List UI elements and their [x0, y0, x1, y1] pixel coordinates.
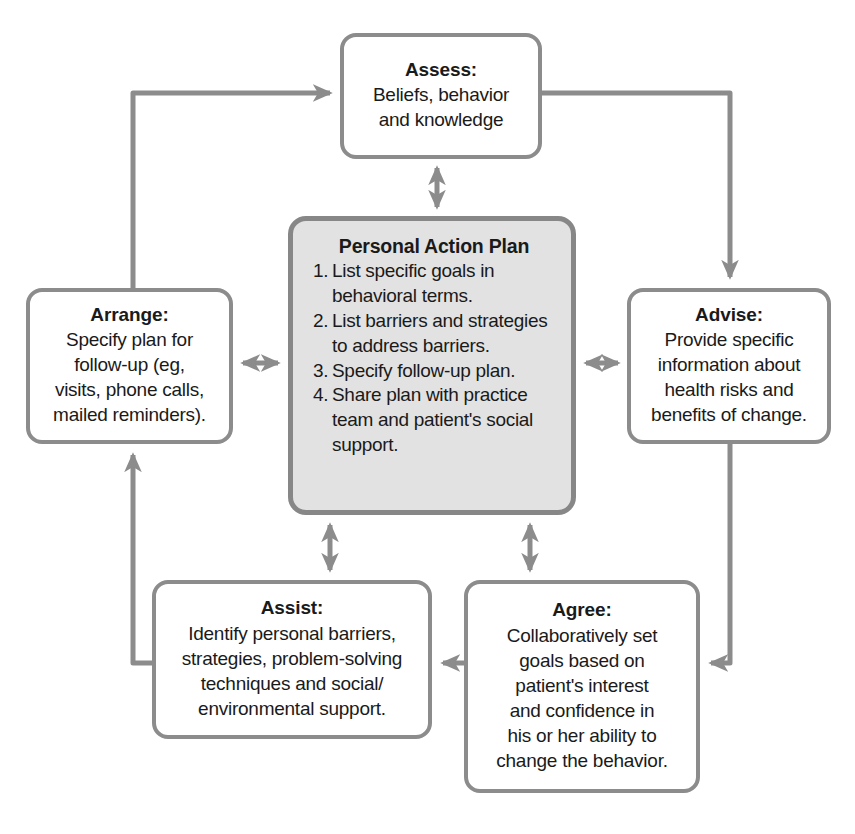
personal-action-plan-item-number: 3. [313, 359, 332, 384]
behavior-change-diagram: Assess: Beliefs, behavior and knowledge … [0, 0, 855, 834]
node-agree-body: Collaboratively set goals based on patie… [496, 623, 667, 773]
node-advise-title: Advise: [695, 303, 763, 328]
node-assist[interactable]: Assist: Identify personal barriers, stra… [152, 580, 432, 739]
personal-action-plan-item-number: 4. [313, 383, 332, 408]
personal-action-plan-item-number: 1. [313, 259, 332, 284]
personal-action-plan-title: Personal Action Plan [313, 235, 555, 258]
personal-action-plan-item-text: Share plan with practice team and patien… [332, 383, 555, 458]
personal-action-plan-item-text: List barriers and strategies to address … [332, 309, 555, 359]
node-agree[interactable]: Agree: Collaboratively set goals based o… [464, 580, 700, 793]
personal-action-plan-item: 4.Share plan with practice team and pati… [313, 383, 555, 458]
personal-action-plan-item-text: List specific goals in behavioral terms. [332, 259, 555, 309]
node-advise-body: Provide specific information about healt… [651, 327, 807, 427]
node-agree-title: Agree: [552, 598, 612, 623]
personal-action-plan-list: 1.List specific goals in behavioral term… [313, 259, 555, 458]
node-assess-body: Beliefs, behavior and knowledge [373, 82, 509, 132]
node-advise[interactable]: Advise: Provide specific information abo… [627, 288, 831, 444]
node-arrange[interactable]: Arrange: Specify plan for follow-up (eg,… [26, 288, 233, 444]
connector-assist-to-arrange [133, 455, 152, 663]
node-assist-body: Identify personal barriers, strategies, … [182, 621, 402, 721]
node-personal-action-plan[interactable]: Personal Action Plan 1.List specific goa… [288, 216, 576, 515]
connector-advise-to-agree [711, 444, 730, 663]
personal-action-plan-item-text: Specify follow-up plan. [332, 359, 555, 384]
node-assess-title: Assess: [405, 58, 477, 83]
node-assess[interactable]: Assess: Beliefs, behavior and knowledge [340, 33, 542, 159]
personal-action-plan-item: 2.List barriers and strategies to addres… [313, 309, 555, 359]
personal-action-plan-item-number: 2. [313, 309, 332, 334]
personal-action-plan-item: 1.List specific goals in behavioral term… [313, 259, 555, 309]
node-arrange-body: Specify plan for follow-up (eg, visits, … [53, 327, 206, 427]
personal-action-plan-item: 3.Specify follow-up plan. [313, 359, 555, 384]
node-assist-title: Assist: [261, 596, 324, 621]
node-arrange-title: Arrange: [90, 303, 168, 328]
